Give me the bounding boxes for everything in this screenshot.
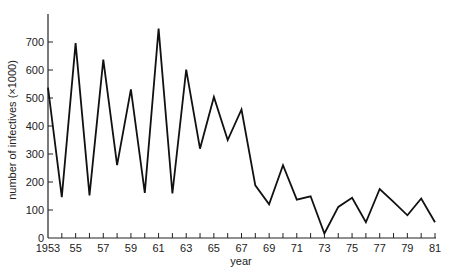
y-tick-label: 600 [26, 64, 44, 76]
x-tick-label: 69 [263, 242, 275, 254]
y-tick-label: 500 [26, 92, 44, 104]
y-tick-label: 200 [26, 176, 44, 188]
x-tick-label: 75 [346, 242, 358, 254]
x-tick-label: 1953 [36, 242, 60, 254]
y-ticks: 0100200300400500600700 [26, 36, 53, 244]
x-ticks: 19535557596163656769717375777981 [36, 233, 441, 254]
x-tick-label: 61 [152, 242, 164, 254]
infectives-line [48, 29, 435, 234]
y-axis-title: number of infectives (×1000) [6, 60, 18, 200]
x-axis-title: year [230, 255, 252, 267]
x-tick-label: 57 [97, 242, 109, 254]
x-tick-label: 65 [208, 242, 220, 254]
x-tick-label: 59 [125, 242, 137, 254]
y-tick-label: 300 [26, 148, 44, 160]
x-tick-label: 79 [401, 242, 413, 254]
x-tick-label: 81 [429, 242, 441, 254]
x-tick-label: 55 [70, 242, 82, 254]
line-chart: 0100200300400500600700 number of infecti… [0, 0, 451, 274]
x-tick-label: 63 [180, 242, 192, 254]
x-axis: 19535557596163656769717375777981 year [36, 233, 441, 267]
y-axis: 0100200300400500600700 number of infecti… [6, 14, 53, 244]
x-tick-label: 67 [235, 242, 247, 254]
y-tick-label: 400 [26, 120, 44, 132]
y-tick-label: 700 [26, 36, 44, 48]
y-tick-label: 100 [26, 204, 44, 216]
x-tick-label: 77 [374, 242, 386, 254]
x-tick-label: 73 [318, 242, 330, 254]
x-tick-label: 71 [291, 242, 303, 254]
